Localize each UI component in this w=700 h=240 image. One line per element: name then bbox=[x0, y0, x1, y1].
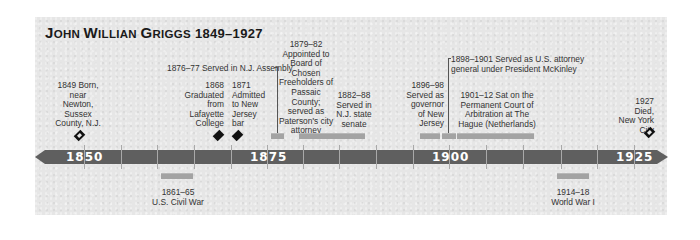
axis-tick bbox=[486, 145, 487, 169]
axis-arrow-icon bbox=[35, 150, 668, 164]
event-admitted-label: 1871 Admitted to New Jersey bar bbox=[232, 81, 268, 129]
axis-tick bbox=[413, 145, 414, 169]
timeline-title: JOHN WILLIAN GRIGGS1849–1927 bbox=[45, 24, 263, 42]
title-initial: G bbox=[140, 24, 152, 41]
event-ww1-label: 1914–18 World War I bbox=[547, 188, 599, 207]
axis-tick bbox=[339, 145, 340, 169]
event-assembly-label: 1876–77 Served in N.J. Assembly bbox=[167, 64, 277, 74]
title-text: OHN bbox=[54, 28, 84, 40]
event-civil-war-bar bbox=[161, 173, 193, 179]
timeline-axis bbox=[35, 150, 668, 164]
title-initial: W bbox=[84, 24, 98, 41]
event-attorney-general-label: 1898–1901 Served as U.S. attorney genera… bbox=[451, 55, 631, 74]
title-years: 1849–1927 bbox=[195, 26, 263, 41]
event-senate-bar bbox=[315, 133, 365, 139]
leader-line bbox=[448, 58, 451, 59]
event-attorney-general-bar bbox=[442, 133, 456, 139]
event-senate-label: 1882–88 Served in N.J. state senate bbox=[336, 91, 372, 129]
title-initial: J bbox=[45, 24, 54, 41]
axis-tick bbox=[303, 145, 304, 169]
event-ww1-bar bbox=[557, 173, 589, 179]
event-governor-bar bbox=[420, 133, 440, 139]
axis-label-1875: 1875 bbox=[250, 150, 287, 164]
axis-label-1925: 1925 bbox=[616, 150, 653, 164]
axis-tick bbox=[157, 145, 158, 169]
event-hague-bar bbox=[457, 133, 534, 139]
event-freeholders-bar bbox=[299, 133, 315, 139]
title-text: RIGGS bbox=[152, 28, 191, 40]
axis-tick bbox=[561, 145, 562, 169]
event-freeholders-label: 1879–82 Appointed to Board of Chosen Fre… bbox=[278, 40, 334, 136]
event-graduated-label: 1868 Graduated from Lafayette College bbox=[184, 81, 224, 129]
axis-tick bbox=[194, 145, 195, 169]
leader-line bbox=[448, 58, 449, 134]
axis-label-1900: 1900 bbox=[432, 150, 469, 164]
event-birth-label: 1849 Born, near Newton, Sussex County, N… bbox=[55, 81, 101, 129]
axis-tick bbox=[231, 145, 232, 169]
title-text: ILLIAN bbox=[98, 28, 140, 40]
axis-label-1850: 1850 bbox=[66, 150, 103, 164]
event-governor-label: 1896–98 Served as governor of New Jersey bbox=[404, 81, 444, 129]
axis-tick bbox=[523, 145, 524, 169]
axis-tick bbox=[597, 145, 598, 169]
axis-tick bbox=[376, 145, 377, 169]
event-civil-war-label: 1861–65 U.S. Civil War bbox=[150, 188, 206, 207]
event-hague-label: 1901–12 Sat on the Permanent Court of Ar… bbox=[457, 91, 537, 129]
axis-tick bbox=[121, 145, 122, 169]
